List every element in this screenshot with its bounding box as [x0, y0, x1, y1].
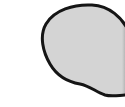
blob-outline — [42, 5, 125, 96]
canvas — [0, 0, 125, 107]
blob-shape — [0, 0, 125, 107]
